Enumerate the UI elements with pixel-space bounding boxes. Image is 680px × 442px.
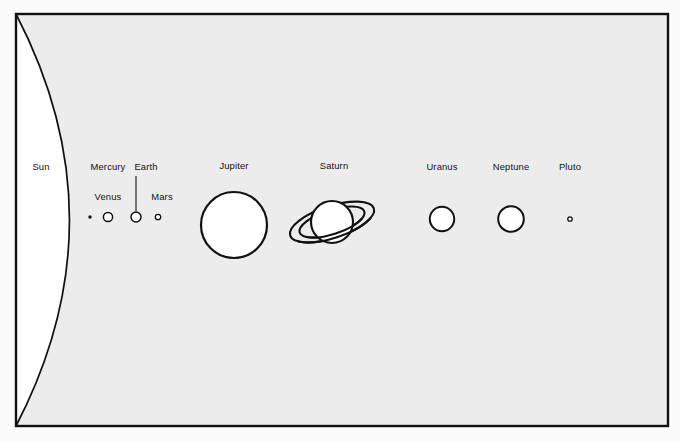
planet-label-mercury: Mercury xyxy=(91,161,126,172)
planet-label-saturn: Saturn xyxy=(320,160,349,171)
planet-label-uranus: Uranus xyxy=(426,161,457,172)
planet-body-venus xyxy=(103,212,112,221)
solar-system-diagram: SunMercuryVenusEarthMarsJupiterSaturnUra… xyxy=(0,0,680,442)
diagram-canvas: SunMercuryVenusEarthMarsJupiterSaturnUra… xyxy=(0,0,680,442)
planet-label-jupiter: Jupiter xyxy=(219,160,248,171)
planet-body-uranus xyxy=(430,207,454,231)
planet-label-neptune: Neptune xyxy=(493,161,530,172)
planet-label-venus: Venus xyxy=(95,191,122,202)
sun-label: Sun xyxy=(32,161,49,172)
planet-body-mars xyxy=(155,214,160,219)
planet-dot-mercury xyxy=(88,215,91,218)
planet-body-earth xyxy=(131,212,141,222)
planet-label-mars: Mars xyxy=(151,191,173,202)
planet-label-earth: Earth xyxy=(134,161,157,172)
planet-label-pluto: Pluto xyxy=(559,161,581,172)
planet-body-jupiter xyxy=(201,192,267,258)
planet-body-neptune xyxy=(498,206,524,232)
planet-body-pluto xyxy=(568,217,572,221)
